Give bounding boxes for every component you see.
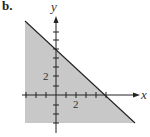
y-axis-arrow-icon (54, 16, 59, 23)
y-axis-label: y (51, 0, 57, 15)
x-tick-label-2: 2 (73, 98, 79, 110)
y-tick-label-2: 2 (43, 70, 49, 82)
inequality-graph (0, 0, 150, 137)
x-axis-label: x (141, 87, 147, 103)
x-axis-arrow-icon (133, 93, 140, 98)
